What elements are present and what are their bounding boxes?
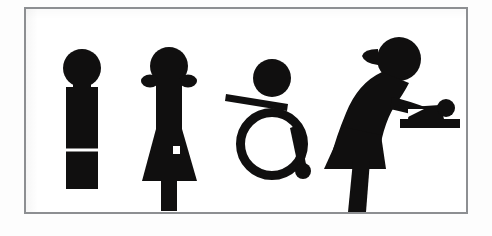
pictogram-artwork [26, 9, 466, 212]
wheelchair-accessible-icon [225, 59, 311, 179]
female-skirt-cutout [173, 146, 180, 154]
baby-changing-station-icon [324, 37, 460, 212]
changing-table [400, 119, 460, 128]
female-restroom-icon [141, 47, 197, 211]
screenshot-root [0, 0, 492, 236]
female-leg [161, 179, 177, 211]
male-leg-split-notch [66, 149, 98, 152]
wheelchair-head [253, 59, 291, 97]
sign-plate [24, 7, 468, 214]
wheelchair-armrest-bar [225, 94, 288, 111]
male-legs [66, 151, 98, 189]
sign-inner-area [26, 9, 466, 212]
adult-hair-bun [362, 49, 378, 65]
female-skirt [142, 129, 197, 181]
wheelchair-caster-wheel [295, 163, 311, 179]
male-torso [66, 87, 98, 149]
baby-head [437, 99, 455, 117]
male-restroom-icon [63, 49, 101, 189]
